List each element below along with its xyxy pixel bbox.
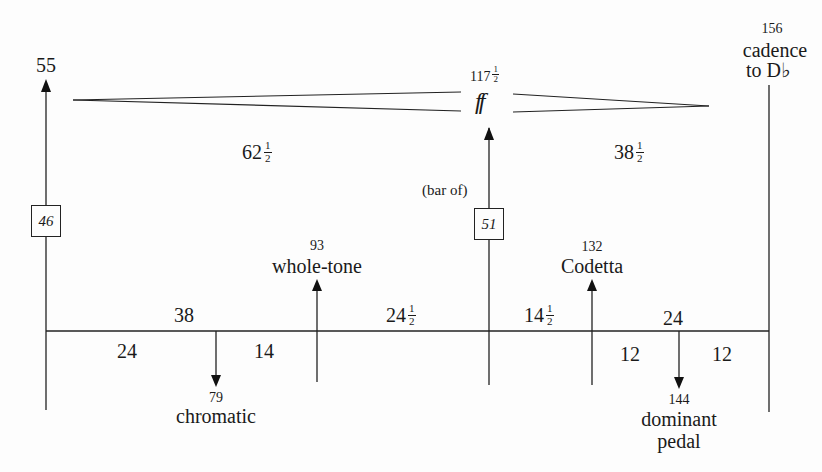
climax-arrow-icon <box>484 127 494 140</box>
diminuendo-lower <box>513 106 709 112</box>
codetta-label: Codetta <box>542 256 642 276</box>
crescendo-lower <box>73 100 461 111</box>
crescendo-span: 6212 <box>242 142 272 166</box>
codetta-bar: 132 <box>572 240 612 254</box>
diminuendo-upper <box>513 94 709 106</box>
boxed-length-51: 51 <box>474 208 504 240</box>
bar-of-label: (bar of) <box>422 183 467 198</box>
dominant-pedal-bar: 144 <box>659 393 699 407</box>
whole-tone-label: whole-tone <box>257 256 377 276</box>
start-arrow-icon <box>41 79 51 92</box>
whole-tone-bar: 93 <box>297 239 337 253</box>
crescendo-upper <box>73 92 461 100</box>
boxed-length-46: 46 <box>31 205 61 237</box>
timeline-above-24: 24 <box>663 308 683 328</box>
timeline-below-12-b: 12 <box>712 344 732 364</box>
dynamic-ff: ff <box>475 88 482 115</box>
whole-tone-arrow-icon <box>312 279 322 291</box>
start-bar-label: 55 <box>36 55 56 75</box>
climax-bar-label: 11712 <box>470 68 499 88</box>
diminuendo-span: 3812 <box>614 142 644 166</box>
dominant-pedal-label-line1: dominant <box>629 409 729 429</box>
timeline-above-14-half: 1412 <box>524 305 554 329</box>
timeline-above-24-half: 2412 <box>386 305 416 329</box>
end-bar-label: 156 <box>752 22 792 36</box>
dominant-pedal-arrow-icon <box>674 377 684 389</box>
timeline-below-12-a: 12 <box>620 344 640 364</box>
timeline-below-14: 14 <box>254 341 274 361</box>
dominant-pedal-label-line2: pedal <box>629 431 729 451</box>
chromatic-bar: 79 <box>196 391 236 405</box>
chromatic-label: chromatic <box>156 406 276 426</box>
end-label-line1: cadence <box>725 40 822 60</box>
end-label-line2: to D♭ <box>746 60 790 80</box>
timeline-above-38: 38 <box>174 305 194 325</box>
codetta-arrow-icon <box>587 279 597 291</box>
chromatic-arrow-icon <box>211 375 221 387</box>
timeline-below-24: 24 <box>117 341 137 361</box>
